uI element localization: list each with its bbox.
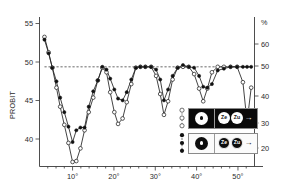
atom-white-core: [195, 112, 208, 125]
data-point: [229, 65, 232, 68]
data-point: [176, 66, 179, 69]
y2tick-30: 30: [261, 119, 269, 128]
data-point: [105, 68, 108, 71]
data-point: [130, 78, 133, 81]
data-point: [83, 126, 86, 129]
data-point: [79, 126, 82, 129]
data-point: [210, 70, 214, 74]
data-point: [134, 66, 137, 69]
atom-ze-filled: Ze: [218, 137, 230, 149]
data-point: [51, 66, 54, 69]
xtick-label-0: 10°: [67, 172, 78, 181]
atom-ze-open: Ze: [218, 112, 230, 124]
data-point: [144, 65, 147, 68]
chart-canvas: 55 50 45 40 PROBIT 60 50 40 30 20 % 10°2…: [0, 0, 288, 190]
left-axis-tick-labels: 55 50 45 40: [25, 19, 33, 144]
right-axis-tick-labels: 60 50 40 30 20: [261, 40, 269, 153]
data-point: [187, 65, 190, 68]
atom-zu-filled: Zu: [231, 137, 243, 149]
y2tick-60: 60: [261, 40, 269, 49]
data-point: [162, 99, 165, 102]
data-point: [67, 141, 71, 145]
legend-single-atom-filled: [189, 134, 215, 153]
data-point: [55, 80, 58, 83]
xtick-label-3: 40°: [191, 172, 202, 181]
data-point: [236, 65, 239, 68]
data-point: [112, 110, 116, 114]
ytick-40: 40: [25, 135, 33, 144]
data-point: [249, 86, 253, 90]
data-point: [198, 74, 201, 77]
data-point: [192, 72, 196, 76]
legend-atom-pair-open: Ze Zu →: [215, 109, 257, 128]
probit-angle-chart: 55 50 45 40 PROBIT 60 50 40 30 20 % 10°2…: [0, 0, 288, 190]
left-axis-ticks: [36, 24, 40, 140]
data-point: [222, 67, 225, 70]
data-point: [47, 52, 50, 55]
legend-row-filled: Ze Zu →: [176, 132, 258, 154]
legend-key-filled-circle: [176, 132, 188, 154]
data-point: [210, 82, 213, 85]
data-point: [121, 117, 125, 121]
xtick-label-1: 20°: [108, 172, 119, 181]
data-point: [74, 159, 78, 163]
data-point: [121, 99, 124, 102]
data-point: [71, 140, 74, 143]
legend-panel-filled: Ze Zu →: [188, 133, 258, 154]
ytick-45: 45: [25, 96, 33, 105]
data-point: [62, 123, 66, 127]
data-point: [43, 38, 46, 41]
data-point: [216, 69, 219, 72]
data-point: [67, 125, 70, 128]
data-point: [139, 65, 142, 68]
data-point: [92, 90, 95, 93]
data-point: [116, 97, 119, 100]
chart-legend: Ze Zu →: [176, 107, 258, 157]
data-point: [166, 99, 170, 103]
data-point: [58, 105, 62, 109]
x-axis-tick-labels: 10°20°30°40°50°: [67, 172, 244, 181]
data-point: [87, 105, 90, 108]
data-point: [158, 92, 162, 96]
data-point: [129, 82, 133, 86]
legend-row-open: Ze Zu →: [176, 107, 258, 129]
data-point: [63, 111, 66, 114]
y2tick-20: 20: [261, 144, 269, 153]
atom-zu-open: Zu: [231, 112, 243, 124]
data-point: [159, 78, 162, 81]
data-point: [154, 74, 158, 78]
data-point: [202, 85, 205, 88]
legend-key-open-circle: [176, 107, 188, 129]
arrow-icon-open: →: [244, 114, 253, 122]
arrow-icon-filled: →: [244, 139, 253, 147]
ytick-55: 55: [25, 19, 33, 28]
data-point: [197, 87, 201, 91]
data-point: [91, 96, 95, 100]
data-point: [108, 90, 112, 94]
data-point: [71, 160, 75, 164]
data-point: [171, 74, 174, 77]
data-point: [201, 99, 205, 103]
xtick-label-2: 30°: [150, 172, 161, 181]
x-axis-ticks: [48, 167, 246, 171]
data-point: [166, 88, 169, 91]
data-point: [245, 65, 248, 68]
atom-black-core: [195, 137, 208, 150]
data-point: [162, 113, 166, 117]
data-point: [155, 68, 158, 71]
atom-core-dot-white: [200, 141, 203, 144]
data-point: [96, 79, 99, 82]
data-point: [125, 91, 128, 94]
y-axis-title: PROBIT: [8, 91, 17, 119]
y2tick-40: 40: [261, 92, 269, 101]
data-point: [216, 65, 220, 69]
data-point: [101, 65, 104, 68]
data-point: [75, 129, 78, 132]
xtick-label-4: 50°: [232, 172, 243, 181]
data-point: [181, 63, 184, 66]
data-point: [241, 65, 244, 68]
ytick-50: 50: [25, 58, 33, 67]
legend-single-atom-open: [189, 109, 215, 128]
data-point: [55, 86, 59, 90]
data-point: [206, 86, 209, 89]
